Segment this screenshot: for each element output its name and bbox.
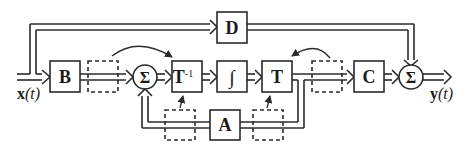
arrow-dashed3-to-tinv bbox=[180, 96, 183, 108]
dashed-box-4 bbox=[253, 110, 283, 140]
t-to-c-line bbox=[292, 70, 354, 84]
input-signal-line bbox=[17, 24, 50, 84]
curved-arrow-to-tinv bbox=[112, 46, 172, 57]
input-label: x(t) bbox=[17, 85, 40, 103]
block-B-label: B bbox=[59, 67, 71, 87]
dashed-box-1 bbox=[88, 61, 118, 92]
output-arg: (t) bbox=[438, 85, 453, 103]
tinv-superscript: -1 bbox=[185, 68, 193, 79]
input-arg: (t) bbox=[25, 85, 40, 103]
input-var: x bbox=[17, 85, 25, 102]
output-var: y bbox=[430, 85, 438, 103]
sum2-label: Σ bbox=[406, 69, 416, 86]
curved-arrow-to-t bbox=[292, 48, 330, 58]
sum1-to-tinv-line bbox=[157, 70, 172, 84]
block-A-label: A bbox=[219, 115, 232, 135]
output-label: y(t) bbox=[430, 85, 453, 103]
tinv-base: T bbox=[173, 67, 185, 87]
block-T-label: T bbox=[271, 67, 283, 87]
sum1-label: Σ bbox=[140, 69, 150, 86]
integrator-to-t-line bbox=[247, 70, 262, 84]
output-signal-line bbox=[423, 70, 451, 84]
dashed-box-3 bbox=[165, 110, 195, 140]
tinv-to-integrator-line bbox=[202, 70, 217, 84]
dashed-box-2 bbox=[312, 61, 342, 92]
c-to-sum2-line bbox=[384, 70, 399, 84]
arrow-dashed4-to-t bbox=[267, 96, 270, 108]
block-diagram: D B Σ T-1 ∫ T C Σ A x(t) y(t) bbox=[0, 0, 471, 154]
block-D-label: D bbox=[226, 18, 239, 38]
block-C-label: C bbox=[363, 67, 376, 87]
